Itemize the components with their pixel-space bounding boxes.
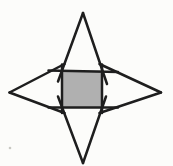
shaded-square bbox=[62, 71, 102, 108]
left-triangle-top-side bbox=[10, 64, 65, 93]
figure-canvas bbox=[0, 0, 173, 166]
right-triangle-top-side bbox=[100, 64, 162, 93]
square-top-edge-line bbox=[49, 71, 119, 73]
right-triangle-bottom-side bbox=[100, 93, 162, 114]
star-figure bbox=[0, 0, 173, 166]
paper-speck bbox=[9, 147, 12, 150]
left-triangle-bottom-side bbox=[10, 93, 65, 114]
